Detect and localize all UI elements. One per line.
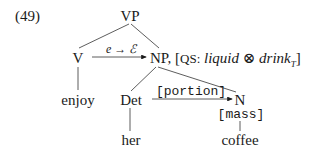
- mass-feature: [mass]: [218, 107, 265, 122]
- example-number: (49): [15, 9, 40, 24]
- qualia-operator: ⊗: [243, 50, 256, 66]
- qualia-structure: [QS: liquid ⊗ drinkT]: [175, 50, 301, 66]
- qualia-label: QS:: [180, 51, 200, 66]
- word-her: her: [121, 133, 140, 148]
- qualia-value-b: drink: [259, 50, 291, 66]
- word-coffee: coffee: [221, 133, 258, 148]
- node-det: Det: [120, 93, 142, 108]
- node-v: V: [73, 51, 84, 66]
- tree-edges: [0, 0, 316, 149]
- node-n: N: [235, 93, 246, 108]
- word-enjoy: enjoy: [61, 93, 94, 108]
- coercion-label: e → ℰ: [106, 42, 136, 57]
- coercion-label-E: ℰ: [129, 42, 136, 56]
- coercion-label-e: e: [106, 42, 111, 56]
- coercion-label-arrow: →: [114, 42, 126, 56]
- qualia-value-a: liquid: [204, 50, 239, 66]
- portion-label: [portion]: [156, 84, 226, 99]
- np-category: NP,: [150, 50, 171, 66]
- node-np: NP, [QS: liquid ⊗ drinkT]: [150, 51, 301, 72]
- node-vp: VP: [120, 9, 139, 24]
